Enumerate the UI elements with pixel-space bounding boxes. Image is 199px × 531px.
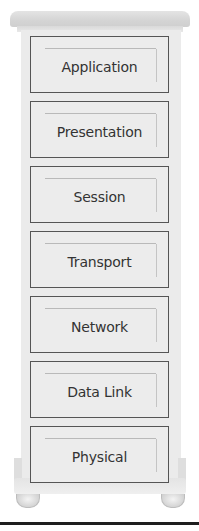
layer-label: Physical — [72, 449, 127, 465]
drawer-handle-line — [156, 244, 157, 277]
chest-foot-left — [16, 494, 40, 508]
layer-label: Transport — [68, 254, 132, 270]
drawer-application: Application — [30, 36, 169, 93]
drawer-presentation: Presentation — [30, 101, 169, 158]
drawer-handle-line — [156, 114, 157, 147]
drawer-inner-line — [45, 243, 156, 244]
drawer-inner-line — [45, 308, 156, 309]
drawer-handle-line — [156, 374, 157, 407]
bottom-rule — [0, 522, 199, 525]
drawer-physical: Physical — [30, 426, 169, 483]
drawer-transport: Transport — [30, 231, 169, 288]
drawer-inner-line — [45, 113, 156, 114]
layer-label: Session — [73, 189, 125, 205]
drawer-data-link: Data Link — [30, 361, 169, 418]
chest-foot-right — [161, 494, 185, 508]
drawer-handle-line — [156, 49, 157, 82]
drawer-inner-line — [45, 178, 156, 179]
layer-label: Presentation — [57, 124, 143, 140]
drawer-inner-line — [45, 48, 156, 49]
layer-label: Application — [61, 59, 137, 75]
layer-label: Network — [71, 319, 128, 335]
drawer-inner-line — [45, 438, 156, 439]
drawer-network: Network — [30, 296, 169, 353]
drawer-handle-line — [156, 439, 157, 472]
drawer-handle-line — [156, 179, 157, 212]
drawer-inner-line — [45, 373, 156, 374]
drawer-handle-line — [156, 309, 157, 342]
layer-label: Data Link — [67, 384, 132, 400]
chest-crown — [10, 11, 190, 27]
drawer-session: Session — [30, 166, 169, 223]
